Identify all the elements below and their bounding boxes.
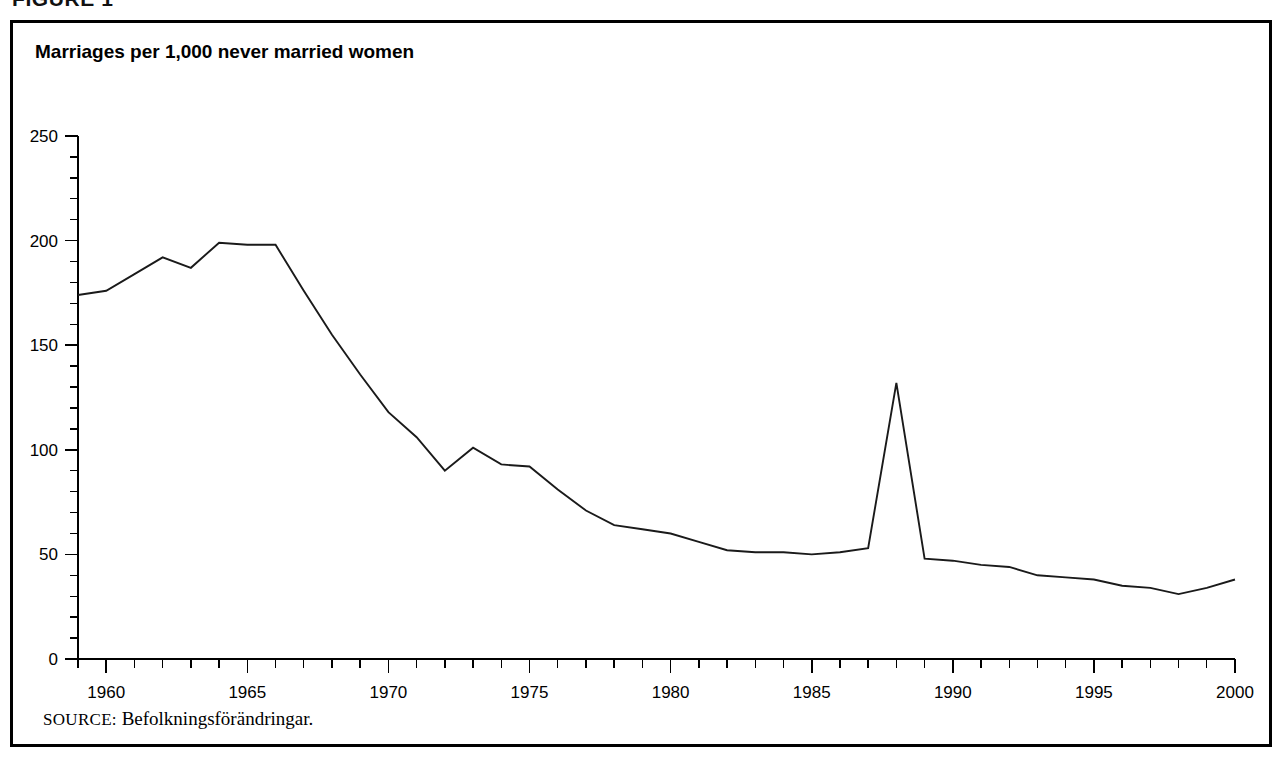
y-tick-label: 100 — [30, 441, 58, 460]
x-axis: 196019651970197519801985199019952000 — [78, 659, 1254, 702]
x-tick-label: 2000 — [1216, 683, 1254, 702]
x-tick-label: 1985 — [793, 683, 831, 702]
chart-plot-area: 050100150200250 196019651970197519801985… — [13, 23, 1269, 703]
x-tick-label: 1970 — [370, 683, 408, 702]
source-text: Befolkningsförändringar. — [122, 708, 314, 729]
figure-box: Marriages per 1,000 never married women … — [10, 20, 1272, 747]
x-tick-label: 1975 — [511, 683, 549, 702]
y-tick-label: 150 — [30, 336, 58, 355]
y-tick-label: 250 — [30, 127, 58, 146]
y-tick-label: 200 — [30, 232, 58, 251]
source-label: SOURCE: — [43, 710, 117, 729]
source-note: SOURCE: Befolkningsförändringar. — [43, 708, 313, 730]
data-series-line — [78, 243, 1235, 594]
y-tick-label: 50 — [39, 545, 58, 564]
y-axis: 050100150200250 — [30, 127, 78, 669]
figure-caption: FIGURE 1 — [12, 0, 114, 11]
x-tick-label: 1995 — [1075, 683, 1113, 702]
y-tick-label: 0 — [49, 650, 58, 669]
x-tick-label: 1990 — [934, 683, 972, 702]
x-tick-label: 1965 — [228, 683, 266, 702]
data-series-group — [78, 243, 1235, 594]
line-chart-svg: 050100150200250 196019651970197519801985… — [13, 23, 1269, 703]
x-tick-label: 1960 — [87, 683, 125, 702]
x-tick-label: 1980 — [652, 683, 690, 702]
